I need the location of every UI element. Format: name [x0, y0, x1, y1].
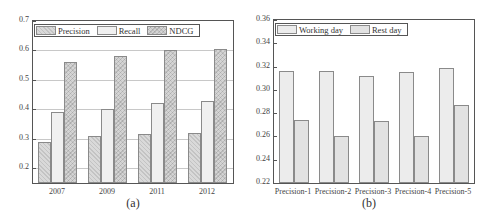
y-tick-label: 0.7	[5, 15, 29, 24]
x-tick-label: 2007	[32, 187, 82, 196]
bar-rest-day-precision-5	[454, 105, 469, 183]
y-tick-label: 0.30	[246, 84, 270, 93]
y-tick-mark	[274, 67, 277, 68]
y-tick-mark	[33, 139, 36, 140]
y-tick-label: 0.34	[246, 37, 270, 46]
legend-swatch-rest-day	[350, 25, 370, 34]
x-tick-label: 2012	[182, 187, 232, 196]
legend-label: Recall	[119, 26, 147, 36]
legend-swatch-recall	[97, 26, 117, 35]
chart-b-plot-area: Working day Rest day	[273, 19, 475, 184]
bar-working-day-precision-3	[359, 76, 374, 183]
bar-working-day-precision-4	[399, 72, 414, 183]
x-tick-label: Precision-3	[353, 187, 393, 196]
bar-working-day-precision-2	[319, 71, 334, 183]
x-tick-label: Precision-1	[273, 187, 313, 196]
y-tick-mark	[274, 183, 277, 184]
chart-a-caption: (a)	[113, 196, 153, 211]
bar-rest-day-precision-3	[374, 121, 389, 183]
bar-working-day-precision-5	[439, 68, 454, 183]
y-tick-mark	[274, 20, 277, 21]
bar-rest-day-precision-2	[334, 136, 349, 183]
bar-ndcg-2009	[114, 56, 127, 183]
bar-working-day-precision-1	[279, 71, 294, 183]
bar-precision-2011	[138, 134, 151, 183]
y-tick-label: 0.28	[246, 107, 270, 116]
x-tick-label: 2009	[82, 187, 132, 196]
y-tick-mark	[274, 90, 277, 91]
legend-label: Precision	[58, 26, 96, 36]
y-tick-mark	[274, 160, 277, 161]
legend-swatch-ndcg	[147, 26, 167, 35]
y-tick-label: 0.3	[5, 133, 29, 142]
legend-swatch-precision	[36, 26, 56, 35]
y-tick-label: 0.26	[246, 130, 270, 139]
chart-a-legend: Precision Recall NDCG	[34, 24, 200, 37]
bar-ndcg-2011	[164, 50, 177, 183]
bar-ndcg-2012	[214, 49, 227, 183]
y-tick-label: 0.2	[5, 162, 29, 171]
bar-recall-2011	[151, 103, 164, 183]
legend-item-recall: Recall	[96, 25, 147, 36]
y-tick-mark	[274, 113, 277, 114]
bar-precision-2009	[88, 136, 101, 183]
bar-precision-2007	[38, 142, 51, 183]
legend-label: NDCG	[169, 26, 199, 36]
y-tick-mark	[274, 136, 277, 137]
gridline	[33, 80, 233, 81]
legend-item-rest-day: Rest day	[349, 24, 408, 35]
chart-b-panel: 0.360.340.320.300.280.260.240.22 Working…	[244, 0, 488, 221]
chart-b-legend: Working day Rest day	[275, 23, 408, 36]
legend-swatch-working-day	[277, 25, 297, 34]
y-tick-mark	[33, 21, 36, 22]
legend-label: Working day	[299, 25, 349, 35]
y-tick-label: 0.24	[246, 154, 270, 163]
gridline	[33, 50, 233, 51]
x-tick-label: Precision-5	[433, 187, 473, 196]
x-tick-label: Precision-4	[393, 187, 433, 196]
y-tick-label: 0.22	[246, 177, 270, 186]
bar-rest-day-precision-1	[294, 120, 309, 183]
bar-recall-2007	[51, 112, 64, 183]
y-tick-label: 0.6	[5, 44, 29, 53]
y-tick-label: 0.36	[246, 14, 270, 23]
y-tick-label: 0.5	[5, 74, 29, 83]
y-tick-label: 0.32	[246, 61, 270, 70]
bar-precision-2012	[188, 133, 201, 183]
chart-a-plot-area: Precision Recall NDCG	[32, 20, 234, 184]
chart-b-caption: (b)	[349, 196, 389, 211]
x-tick-label: 2011	[132, 187, 182, 196]
legend-item-ndcg: NDCG	[146, 25, 199, 36]
y-tick-mark	[33, 168, 36, 169]
y-tick-mark	[274, 43, 277, 44]
bar-recall-2012	[201, 101, 214, 183]
y-tick-mark	[33, 109, 36, 110]
legend-item-precision: Precision	[35, 25, 96, 36]
legend-label: Rest day	[372, 25, 408, 35]
chart-a-panel: 0.70.60.50.40.30.2 Precision Recall NDCG…	[0, 0, 244, 221]
legend-item-working-day: Working day	[276, 24, 349, 35]
x-tick-label: Precision-2	[313, 187, 353, 196]
y-tick-label: 0.4	[5, 103, 29, 112]
bar-recall-2009	[101, 109, 114, 183]
bar-ndcg-2007	[64, 62, 77, 183]
y-tick-mark	[33, 50, 36, 51]
bar-rest-day-precision-4	[414, 136, 429, 183]
y-tick-mark	[33, 80, 36, 81]
